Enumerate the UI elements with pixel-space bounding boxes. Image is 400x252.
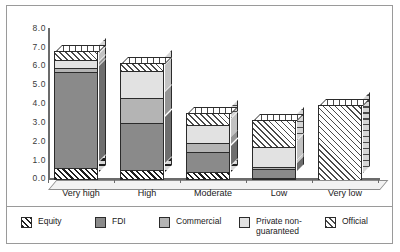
legend-label-private-non-guaranteed: Private non- guaranteed	[256, 216, 302, 236]
bar-segment-official	[120, 63, 164, 71]
bar-moderate	[186, 113, 230, 181]
legend-item-private-non-guaranteed: Private non- guaranteed	[239, 216, 302, 236]
fdi-swatch-icon	[95, 217, 106, 228]
bar-segment-equity	[186, 172, 230, 180]
bar-top-face	[319, 99, 370, 106]
chart-frame: 8.0 7.0 6.0 5.0 4.0 3.0 2.0 1.0 0.0	[6, 5, 393, 244]
bar-segment-commercial	[186, 143, 230, 151]
bar-group	[7, 6, 394, 206]
legend-item-commercial: Commercial	[159, 216, 221, 228]
private-non-guaranteed-swatch-icon	[239, 217, 250, 228]
legend-label-official: Official	[342, 216, 368, 226]
bar-segment-private	[252, 147, 296, 167]
plot-area: 8.0 7.0 6.0 5.0 4.0 3.0 2.0 1.0 0.0	[7, 6, 394, 206]
legend-label-commercial: Commercial	[176, 216, 221, 226]
bar-segment-official	[252, 120, 296, 147]
commercial-swatch-icon	[159, 217, 170, 228]
bar-segment-equity	[252, 178, 296, 180]
bar-high	[120, 63, 164, 180]
bar-top-face	[55, 45, 106, 52]
chart-legend: Equity FDI Commercial Private non- guara…	[7, 206, 392, 244]
bar-very-low	[318, 105, 362, 180]
bar-segment-official	[186, 113, 230, 125]
bar-top-face	[187, 107, 238, 114]
bar-top-face	[253, 114, 304, 121]
bar-segment-fdi	[120, 123, 164, 170]
bar-segment-official	[54, 51, 98, 60]
bar-very-high	[54, 51, 98, 180]
bar-segment-official	[318, 105, 362, 180]
bar-segment-side	[165, 110, 172, 163]
bar-segment-equity	[54, 168, 98, 180]
bar-segment-fdi	[54, 72, 98, 168]
x-label-very-low: Very low	[305, 188, 385, 198]
bar-low	[252, 120, 296, 180]
bar-segment-fdi	[252, 169, 296, 178]
legend-item-official: Official	[325, 216, 368, 228]
bar-segment-fdi	[186, 152, 230, 172]
bar-segment-private	[120, 71, 164, 98]
chart-screenshot: 8.0 7.0 6.0 5.0 4.0 3.0 2.0 1.0 0.0	[0, 0, 400, 252]
bar-segment-side	[99, 59, 106, 161]
legend-item-fdi: FDI	[95, 216, 126, 228]
legend-item-equity: Equity	[21, 216, 62, 228]
official-swatch-icon	[325, 217, 336, 228]
bar-segment-private	[186, 125, 230, 144]
legend-label-fdi: FDI	[112, 216, 126, 226]
equity-swatch-icon	[21, 217, 32, 228]
bar-top-face	[121, 57, 172, 64]
bar-segment-equity	[120, 170, 164, 180]
bar-segment-commercial	[120, 98, 164, 122]
bar-segment-private	[54, 60, 98, 68]
legend-label-equity: Equity	[38, 216, 62, 226]
x-axis-labels: Very high High Moderate Low Very low	[7, 188, 394, 206]
